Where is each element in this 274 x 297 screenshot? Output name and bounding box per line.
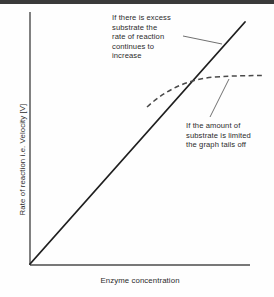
annotation-excess-line-2: substrate the <box>112 23 171 33</box>
y-axis-label: Rate of reaction i.e. Velocity [V] <box>18 75 27 245</box>
annotation-limited-line-2: substrate is limited <box>186 131 251 141</box>
leader-line-limited-substrate <box>210 79 229 117</box>
annotation-limited-line-3: the graph tails off <box>186 140 251 150</box>
x-axis-label: Enzyme concentration <box>30 276 250 285</box>
leader-line-excess-substrate <box>183 36 222 44</box>
annotation-limited-substrate: If the amount of substrate is limited th… <box>186 121 251 150</box>
enzyme-kinetics-figure: If there is excess substrate the rate of… <box>0 0 274 297</box>
annotation-limited-line-1: If the amount of <box>186 121 251 131</box>
annotation-excess-line-5: increase <box>112 51 171 61</box>
annotation-excess-line-3: rate of reaction <box>112 32 171 42</box>
annotation-excess-line-1: If there is excess <box>112 13 171 23</box>
annotation-excess-line-4: continues to <box>112 42 171 52</box>
annotation-excess-substrate: If there is excess substrate the rate of… <box>112 13 171 61</box>
series-curve-limited-substrate <box>147 76 262 107</box>
